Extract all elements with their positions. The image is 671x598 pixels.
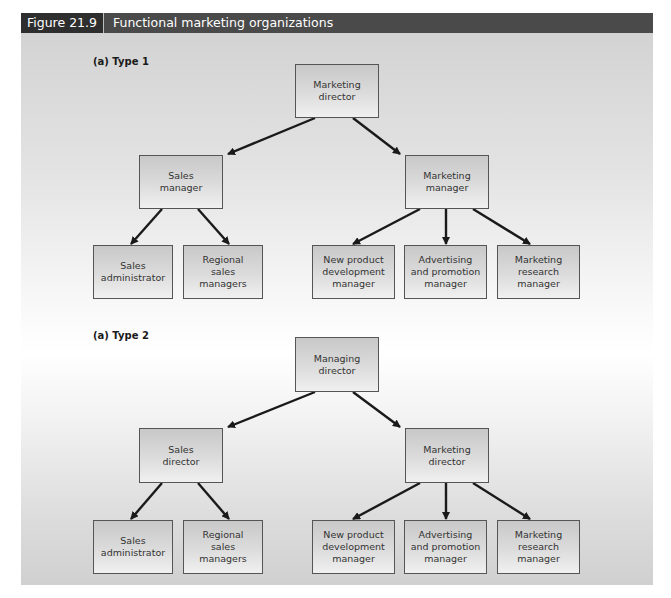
type2-advertising-box: Advertising and promotion manager <box>404 520 487 574</box>
type2-npd-box: New product development manager <box>312 520 395 574</box>
type1-npd-box: New product development manager <box>312 245 395 299</box>
type2-right-mid-box: Marketing director <box>405 428 489 483</box>
type1-advertising-box: Advertising and promotion manager <box>404 245 487 299</box>
type2-top-box: Managing director <box>295 337 379 392</box>
type1-label: (a) Type 1 <box>93 56 149 67</box>
type1-research-box: Marketing research manager <box>497 245 580 299</box>
type2-left-mid-box: Sales director <box>139 428 223 483</box>
type2-label: (a) Type 2 <box>93 330 149 341</box>
type1-left-mid-box: Sales manager <box>139 155 223 209</box>
type2-regional-box: Regional sales managers <box>183 520 263 574</box>
arrow-top-to-right <box>353 118 400 154</box>
type1-sales-admin-box: Sales administrator <box>93 245 173 299</box>
type2-research-box: Marketing research manager <box>497 520 580 574</box>
type1-right-mid-box: Marketing manager <box>405 155 489 209</box>
type1-regional-box: Regional sales managers <box>183 245 263 299</box>
type1-top-box: Marketing director <box>295 64 379 118</box>
type2-sales-admin-box: Sales administrator <box>93 520 173 574</box>
arrow-top-to-left <box>228 118 315 154</box>
